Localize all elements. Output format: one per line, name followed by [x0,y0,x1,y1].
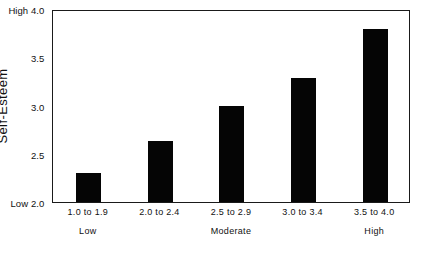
bar-slot [196,11,268,202]
y-axis-tick-value: 4.0 [31,5,48,16]
y-axis-tick-label: High4.0 [0,5,52,16]
y-axis-tick-label: 2.5 [0,149,52,160]
x-axis-group-label: Moderate [195,226,267,236]
bar-slot [268,11,340,202]
y-axis-tick-prefix: High [8,5,28,16]
x-axis-tick-label: 2.5 to 2.9 [195,207,267,217]
bar[interactable] [291,78,316,202]
y-axis-tick-value: 2.5 [31,149,48,160]
y-axis-tick-value: 2.0 [31,198,48,209]
bar-chart-figure: Self-Esteem Low2.02.53.03.5High4.0 1.0 t… [0,0,423,253]
y-axis-tick-prefix: Low [11,198,28,209]
y-axis-tick-label: 3.5 [0,53,52,64]
x-axis-group-label: Low [52,226,124,236]
plot-area [52,10,410,203]
x-axis-tick-label: 2.0 to 2.4 [124,207,196,217]
bar-slot [53,11,125,202]
bar[interactable] [148,141,173,202]
bar-slot [339,11,411,202]
y-axis-tick-label: 3.0 [0,101,52,112]
x-axis-group-label: High [338,226,410,236]
x-axis-tick-label: 3.0 to 3.4 [267,207,339,217]
y-axis-tick-label: Low2.0 [0,198,52,209]
x-axis-tick-label: 1.0 to 1.9 [52,207,124,217]
bar[interactable] [219,106,244,202]
bar-slot [125,11,197,202]
y-axis-tick-value: 3.5 [31,53,48,64]
bar[interactable] [363,29,388,202]
x-axis-tick-label: 3.5 to 4.0 [338,207,410,217]
y-axis-tick-value: 3.0 [31,101,48,112]
bar[interactable] [76,173,101,202]
